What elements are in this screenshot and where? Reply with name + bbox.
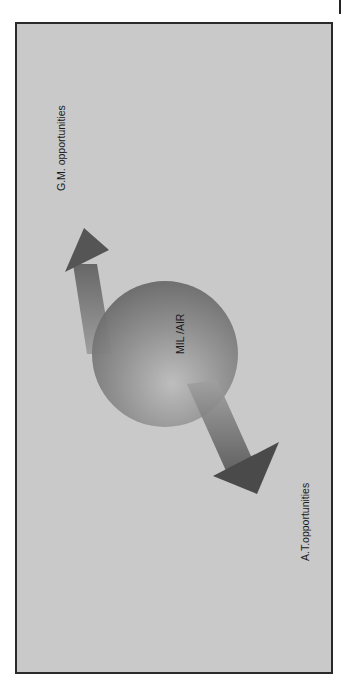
- page-corner-mark: [339, 0, 341, 14]
- gm-opportunities-label: G.M. opportunities: [55, 105, 67, 191]
- mil-air-label: MIL /AIR: [174, 314, 186, 354]
- at-arrow: [187, 380, 279, 494]
- diagram-frame: G.M. opportunities MIL /AIR A.T.opportun…: [15, 22, 333, 674]
- at-opportunities-label: A.T.opportunities: [299, 483, 311, 561]
